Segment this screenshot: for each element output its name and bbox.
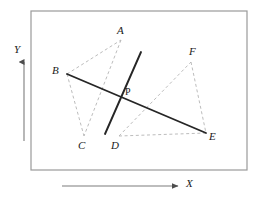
plot-border bbox=[31, 11, 247, 170]
segment-B-E bbox=[67, 74, 206, 133]
point-label-b: B bbox=[52, 65, 59, 76]
dashed-segments-group bbox=[67, 40, 206, 136]
segment-B-A bbox=[67, 40, 121, 74]
x-axis-label: X bbox=[186, 178, 193, 189]
point-label-p: P bbox=[125, 87, 131, 97]
segment-A-C bbox=[84, 40, 121, 136]
solid-segments-group bbox=[67, 52, 206, 134]
geometry-figure: A B C D E F P Y X bbox=[0, 0, 263, 199]
point-label-a: A bbox=[117, 25, 124, 36]
point-label-d: D bbox=[111, 140, 119, 151]
segment-D-E bbox=[119, 133, 206, 136]
y-axis-label: Y bbox=[14, 44, 20, 55]
segment-D-F bbox=[119, 62, 191, 136]
point-label-e: E bbox=[209, 131, 216, 142]
point-label-c: C bbox=[78, 140, 85, 151]
point-label-f: F bbox=[189, 46, 196, 57]
figure-canvas bbox=[0, 0, 263, 199]
segment-B-C bbox=[67, 74, 84, 136]
segment-F-E bbox=[191, 62, 206, 133]
